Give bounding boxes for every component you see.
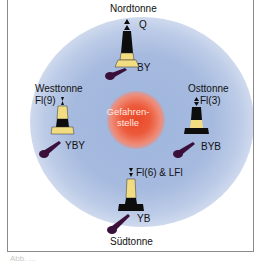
south-buoy-name: Südtonne xyxy=(110,236,153,248)
north-cardinal-buoy-icon xyxy=(105,17,155,82)
danger-label-line1: Gefahren- xyxy=(101,106,155,117)
danger-label: Gefahren- stelle xyxy=(101,106,155,128)
west-buoy-name: Westtonne xyxy=(35,83,83,95)
east-buoy-name: Osttonne xyxy=(188,83,229,95)
figure-caption: Abb. ... xyxy=(10,254,35,261)
west-cardinal-buoy-icon xyxy=(38,95,88,165)
east-cardinal-buoy-icon xyxy=(172,95,222,165)
north-buoy-name: Nordtonne xyxy=(110,3,157,15)
south-cardinal-buoy-icon xyxy=(105,166,155,236)
danger-label-line2: stelle xyxy=(101,117,155,128)
